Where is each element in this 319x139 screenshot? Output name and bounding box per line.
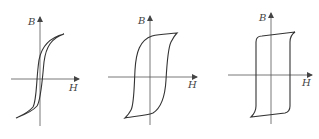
panel-medium-loop: B H xyxy=(108,15,197,125)
b-axis-label: B xyxy=(258,12,266,23)
h-axis-label: H xyxy=(68,82,78,93)
h-axis-label: H xyxy=(187,79,197,90)
h-axis-label: H xyxy=(301,77,311,88)
b-axis-label: B xyxy=(27,16,35,27)
hysteresis-figure: B H B H B H xyxy=(0,0,319,139)
panel-hard-loop: B H xyxy=(228,12,312,124)
hysteresis-loop-medium xyxy=(125,33,177,118)
hysteresis-loop-hard xyxy=(251,32,295,117)
panel-soft-loop: B H xyxy=(11,16,79,126)
b-axis-label: B xyxy=(137,15,145,26)
